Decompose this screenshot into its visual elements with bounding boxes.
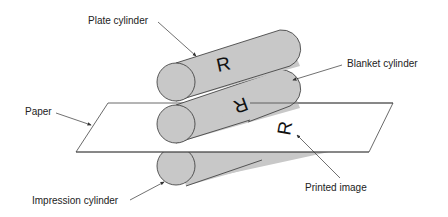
label-paper: Paper (25, 106, 91, 125)
svg-text:Printed image: Printed image (305, 182, 367, 193)
svg-text:Impression cylinder: Impression cylinder (32, 195, 119, 206)
label-impression-cylinder: Impression cylinder (32, 182, 164, 206)
offset-printing-diagram: R R R Plate cylinder Blanket cylinder Pa… (0, 0, 448, 217)
svg-text:Paper: Paper (25, 106, 52, 117)
svg-text:Plate cylinder: Plate cylinder (88, 15, 149, 26)
svg-text:Blanket cylinder: Blanket cylinder (347, 58, 418, 69)
label-blanket-cylinder: Blanket cylinder (293, 58, 418, 80)
label-plate-cylinder: Plate cylinder (88, 15, 196, 56)
